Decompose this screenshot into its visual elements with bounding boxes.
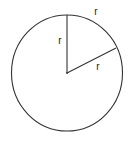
radian-diagram: r r r — [0, 0, 133, 144]
arc-length-label: r — [94, 6, 98, 17]
radian-diagram-svg: r r r — [0, 0, 133, 144]
vertical-radius-label: r — [58, 35, 62, 46]
slanted-radius-label: r — [96, 61, 100, 72]
slanted-radius-line — [67, 48, 116, 73]
center-point — [66, 72, 68, 74]
